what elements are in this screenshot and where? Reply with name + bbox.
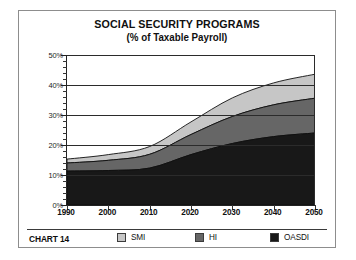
y-minor-tick: [63, 139, 67, 140]
chart-title-block: SOCIAL SECURITY PROGRAMS (% of Taxable P…: [19, 18, 335, 44]
y-minor-tick: [63, 163, 67, 164]
gridline: [67, 85, 315, 86]
legend-swatch-icon: [195, 233, 204, 242]
plot-axes: [66, 55, 315, 206]
x-tick-label: 2050: [305, 208, 322, 217]
x-tick-label: 1990: [57, 208, 74, 217]
y-minor-tick: [63, 67, 67, 68]
y-minor-tick: [63, 181, 67, 182]
gridline: [67, 145, 315, 146]
y-minor-tick: [63, 127, 67, 128]
legend-swatch-icon: [117, 233, 126, 242]
x-tick-label: 2040: [264, 208, 281, 217]
y-major-tick: [61, 145, 67, 146]
y-axis-labels: 0%10%20%30%40%50%: [43, 55, 65, 205]
legend-label: HI: [209, 233, 217, 242]
legend-divider: [27, 229, 327, 230]
y-minor-tick: [63, 187, 67, 188]
y-minor-tick: [63, 169, 67, 170]
x-tick-label: 2010: [140, 208, 157, 217]
plot-canvas: [67, 55, 315, 205]
y-minor-tick: [63, 151, 67, 152]
y-minor-tick: [63, 97, 67, 98]
legend-swatch-icon: [270, 233, 279, 242]
legend-item-hi: HI: [195, 233, 217, 242]
x-tick-label: 2030: [223, 208, 240, 217]
y-minor-tick: [63, 193, 67, 194]
chart-figure: SOCIAL SECURITY PROGRAMS (% of Taxable P…: [18, 10, 336, 248]
plot-right-border: [314, 55, 315, 205]
y-minor-tick: [63, 73, 67, 74]
y-minor-tick: [63, 133, 67, 134]
legend-label: OASDI: [284, 233, 309, 242]
chart-number-label: CHART 14: [29, 234, 69, 244]
y-minor-tick: [63, 61, 67, 62]
y-minor-tick: [63, 157, 67, 158]
y-minor-tick: [63, 121, 67, 122]
stacked-area-svg: [67, 55, 315, 205]
x-tick-label: 2020: [181, 208, 198, 217]
y-major-tick: [61, 175, 67, 176]
y-minor-tick: [63, 199, 67, 200]
x-tick-label: 2000: [99, 208, 116, 217]
chart-subtitle: (% of Taxable Payroll): [30, 31, 324, 44]
legend-item-oasdi: OASDI: [270, 233, 309, 242]
y-minor-tick: [63, 103, 67, 104]
page-title: SOCIAL SECURITY PROGRAMS: [30, 18, 324, 31]
legend-label: SMI: [131, 233, 145, 242]
y-minor-tick: [63, 109, 67, 110]
y-major-tick: [61, 115, 67, 116]
y-minor-tick: [63, 79, 67, 80]
y-minor-tick: [63, 91, 67, 92]
gridline: [67, 115, 315, 116]
gridline: [67, 175, 315, 176]
legend-item-smi: SMI: [117, 233, 145, 242]
y-major-tick: [61, 85, 67, 86]
plot-area: 0%10%20%30%40%50% 1990200020102020203020…: [43, 55, 315, 225]
x-axis-labels: 1990200020102020203020402050: [66, 207, 314, 221]
plot-top-border: [67, 55, 315, 56]
chart-legend: CHART 14 SMIHIOASDI: [27, 232, 327, 247]
